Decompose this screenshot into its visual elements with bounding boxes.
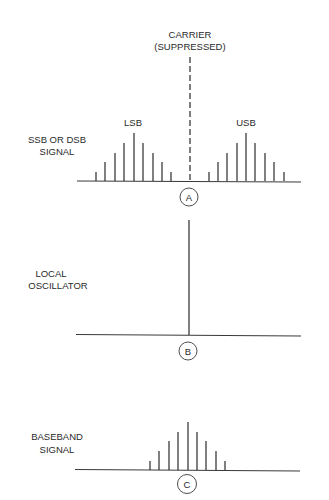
panel-a-baseline bbox=[77, 181, 301, 182]
marker-c-label: C bbox=[184, 479, 191, 490]
panel-a-ssb-dsb-signal: CARRIER (SUPPRESSED) LSB USB SSB OR DSB … bbox=[28, 29, 301, 206]
lsb-spectral-lines bbox=[96, 133, 171, 181]
marker-a-label: A bbox=[186, 192, 193, 203]
lsb-label: LSB bbox=[124, 117, 142, 128]
panel-b-baseline bbox=[76, 335, 301, 337]
panel-b-side-label-line1: LOCAL bbox=[35, 268, 66, 279]
carrier-label-line2: (SUPPRESSED) bbox=[154, 41, 225, 52]
baseband-spectral-lines bbox=[150, 422, 225, 470]
marker-b-label: B bbox=[185, 346, 191, 357]
panel-b-local-oscillator: LOCAL OSCILLATOR B bbox=[28, 220, 301, 360]
panel-c-side-label-line2: SIGNAL bbox=[40, 444, 75, 455]
signal-diagram: CARRIER (SUPPRESSED) LSB USB SSB OR DSB … bbox=[0, 0, 329, 500]
panel-a-side-label-line1: SSB OR DSB bbox=[28, 134, 86, 145]
carrier-label-line1: CARRIER bbox=[169, 29, 212, 40]
usb-spectral-lines bbox=[209, 133, 284, 181]
panel-c-side-label-line1: BASEBAND bbox=[31, 431, 83, 442]
usb-label: USB bbox=[236, 117, 256, 128]
panel-b-side-label-line2: OSCILLATOR bbox=[28, 280, 87, 291]
panel-c-baseband-signal: BASEBAND SIGNAL C bbox=[31, 422, 300, 494]
panel-a-side-label-line2: SIGNAL bbox=[40, 146, 75, 157]
